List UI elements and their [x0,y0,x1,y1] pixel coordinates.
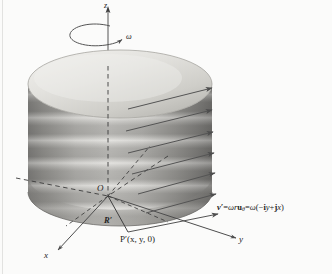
velocity-equation: v′=ωruθ=ω(−iy+jx) [217,203,284,212]
equation-close-paren: ) [281,202,284,212]
origin-label: O [97,184,104,193]
position-vector-label: R′ [104,216,112,225]
rotation-arc [70,24,122,46]
z-axis [106,6,111,50]
x-axis-label: x [44,251,48,260]
point-P-label: P′(x, y, 0) [120,235,155,244]
omega-label: ω [126,33,132,41]
y-axis-label: y [239,235,243,244]
z-axis-label: z [104,2,107,10]
rotating-cylinder-figure [0,0,332,274]
